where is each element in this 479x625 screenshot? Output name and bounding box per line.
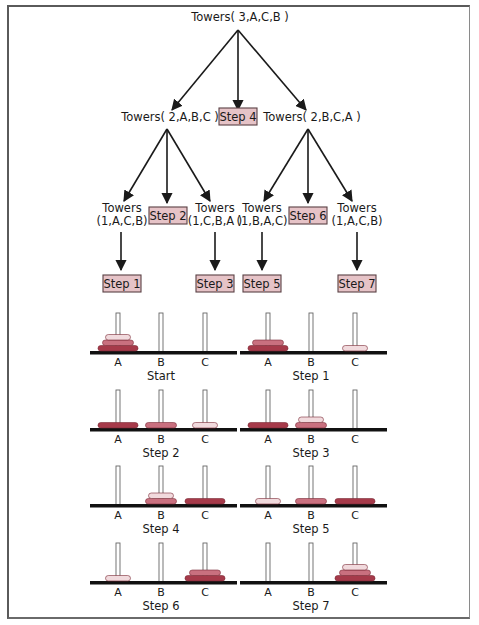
state-caption: Step 7: [292, 599, 329, 613]
edge-r1-c: [308, 129, 352, 201]
disk-medium: [103, 340, 134, 346]
state-panel-step-5: ABCStep 5: [240, 466, 387, 536]
peg-label-a: A: [114, 356, 122, 369]
peg-label-c: C: [201, 433, 209, 446]
state-caption: Step 4: [142, 522, 179, 536]
step-box-step7: Step 7: [338, 275, 376, 292]
peg-b: [159, 313, 163, 352]
peg-label-a: A: [264, 586, 272, 599]
edge-l1-c: [167, 129, 210, 201]
step-box-step4: Step 4: [219, 108, 257, 125]
step-box-step2: Step 2: [149, 207, 187, 224]
peg-label-a: A: [114, 509, 122, 522]
disk-medium: [146, 499, 177, 505]
tree-node-level2-args: (1,A,C,B): [331, 214, 382, 228]
tree-node-level1: Towers( 2,B,C,A ): [262, 110, 361, 124]
peg-label-a: A: [114, 433, 122, 446]
tree-nodes: Towers( 3,A,C,B )Towers( 2,A,B,C )Step 4…: [96, 10, 382, 292]
state-caption: Start: [147, 369, 176, 383]
disk-small: [299, 417, 324, 423]
peg-label-c: C: [351, 433, 359, 446]
state-panel-step-4: ABCStep 4: [90, 466, 237, 536]
tree-node-level2-args: (1,A,C,B): [96, 214, 147, 228]
tree-node-level2-name: Towers: [336, 201, 376, 215]
step-box-step5: Step 5: [243, 275, 281, 292]
peg-a: [116, 466, 120, 505]
base: [240, 351, 387, 355]
disk-small: [256, 499, 281, 505]
peg-label-b: B: [307, 356, 315, 369]
step-label: Step 6: [289, 209, 326, 223]
peg-b: [309, 313, 313, 352]
step-label: Step 2: [149, 209, 186, 223]
disk-small: [106, 576, 131, 582]
peg-label-a: A: [264, 433, 272, 446]
peg-label-b: B: [307, 509, 315, 522]
peg-label-b: B: [157, 586, 165, 599]
tree-node-level1: Towers( 2,A,B,C ): [120, 110, 219, 124]
tree-node-level2-args: (1,C,B,A ): [188, 214, 243, 228]
peg-label-b: B: [307, 586, 315, 599]
peg-label-a: A: [264, 509, 272, 522]
peg-label-c: C: [201, 586, 209, 599]
base: [240, 428, 387, 432]
peg-c: [203, 313, 207, 352]
disk-medium: [296, 499, 327, 505]
state-panel-step-7: ABCStep 7: [240, 543, 387, 613]
peg-label-c: C: [351, 509, 359, 522]
step-box-step6: Step 6: [289, 207, 327, 224]
peg-label-b: B: [157, 356, 165, 369]
edge-root-left: [172, 30, 238, 110]
hanoi-diagram: Towers( 3,A,C,B )Towers( 2,A,B,C )Step 4…: [0, 0, 479, 625]
disk-large: [98, 423, 138, 429]
state-panel-step-3: ABCStep 3: [240, 390, 387, 460]
tree-edges: [121, 30, 357, 270]
disk-small: [343, 565, 368, 571]
peg-label-c: C: [351, 356, 359, 369]
hanoi-states: ABCStartABCStep 1ABCStep 2ABCStep 3ABCSt…: [90, 313, 387, 613]
state-caption: Step 1: [292, 369, 329, 383]
state-caption: Step 3: [292, 446, 329, 460]
disk-large: [185, 499, 225, 505]
peg-label-b: B: [307, 433, 315, 446]
disk-medium: [146, 423, 177, 429]
state-panel-start: ABCStart: [90, 313, 237, 383]
base: [90, 504, 237, 508]
tree-node-level2-name: Towers: [194, 201, 234, 215]
step-label: Step 3: [196, 277, 233, 291]
disk-large: [248, 423, 288, 429]
peg-label-c: C: [201, 356, 209, 369]
step-label: Step 5: [243, 277, 280, 291]
base: [90, 428, 237, 432]
state-caption: Step 6: [142, 599, 179, 613]
peg-label-c: C: [351, 586, 359, 599]
disk-small: [106, 335, 131, 341]
base: [240, 504, 387, 508]
tree-node-root: Towers( 3,A,C,B ): [190, 10, 289, 24]
base: [240, 581, 387, 585]
edge-l1-a: [124, 129, 167, 201]
edge-root-right: [238, 30, 306, 110]
step-label: Step 7: [338, 277, 375, 291]
state-panel-step-6: ABCStep 6: [90, 543, 237, 613]
disk-medium: [340, 570, 371, 576]
base: [90, 581, 237, 585]
peg-label-a: A: [264, 356, 272, 369]
disk-small: [343, 346, 368, 352]
state-panel-step-2: ABCStep 2: [90, 390, 237, 460]
peg-label-a: A: [114, 586, 122, 599]
tree-node-level2-name: Towers: [101, 201, 141, 215]
step-label: Step 4: [219, 110, 256, 124]
peg-label-b: B: [157, 509, 165, 522]
disk-medium: [296, 423, 327, 429]
tree-node-level2-args: (1,B,A,C): [236, 214, 287, 228]
disk-large: [185, 576, 225, 582]
disk-large: [248, 346, 288, 352]
step-label: Step 1: [103, 277, 140, 291]
peg-a: [266, 543, 270, 582]
disk-small: [149, 493, 174, 499]
peg-b: [159, 543, 163, 582]
disk-large: [98, 346, 138, 352]
base: [90, 351, 237, 355]
peg-b: [309, 543, 313, 582]
